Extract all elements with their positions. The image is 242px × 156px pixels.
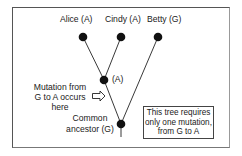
leaf-label-alice: Alice (A) [60,14,92,24]
root-label-line-1: Common [62,113,118,123]
right-arrow-icon [93,91,106,101]
note-box: This tree requires only one mutation, fr… [143,106,214,139]
mutation-annotation-line-3: here [30,102,90,112]
note-line-3: from G to A [158,127,199,137]
note-line-1: This tree requires [147,108,211,118]
leaf-label-cindy: Cindy (A) [105,14,141,24]
node-betty [154,33,163,42]
edge-alice-internal [83,37,104,80]
root-label-line-2: ancestor (G) [62,124,118,134]
node-internal [100,76,109,85]
leaf-label-betty: Betty (G) [147,14,181,24]
note-line-2: only one mutation, [145,118,212,128]
mutation-annotation-line-2: G to A occurs [30,92,90,102]
node-alice [79,33,88,42]
node-cindy [117,33,126,42]
mutation-annotation-line-1: Mutation from [30,82,90,92]
internal-node-label: (A) [112,74,123,84]
